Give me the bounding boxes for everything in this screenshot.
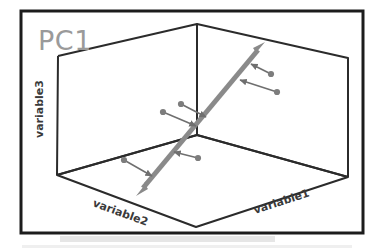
pc1-title-label: PC1	[38, 25, 92, 56]
axis-label-variable3: variable3	[33, 80, 46, 138]
point-marker-p4	[274, 89, 280, 95]
scan-smudge-lower	[22, 245, 352, 248]
point-marker-p5	[121, 157, 127, 163]
point-marker-p6	[195, 155, 201, 161]
scan-smudge	[60, 236, 275, 242]
point-marker-p1	[160, 109, 166, 115]
point-marker-p2	[178, 101, 184, 107]
pca-diagram: PC1 variable3 variable2 variable1	[0, 0, 385, 252]
point-marker-p3	[268, 71, 274, 77]
pca-figure-panel: PC1 variable3 variable2 variable1	[0, 0, 385, 252]
